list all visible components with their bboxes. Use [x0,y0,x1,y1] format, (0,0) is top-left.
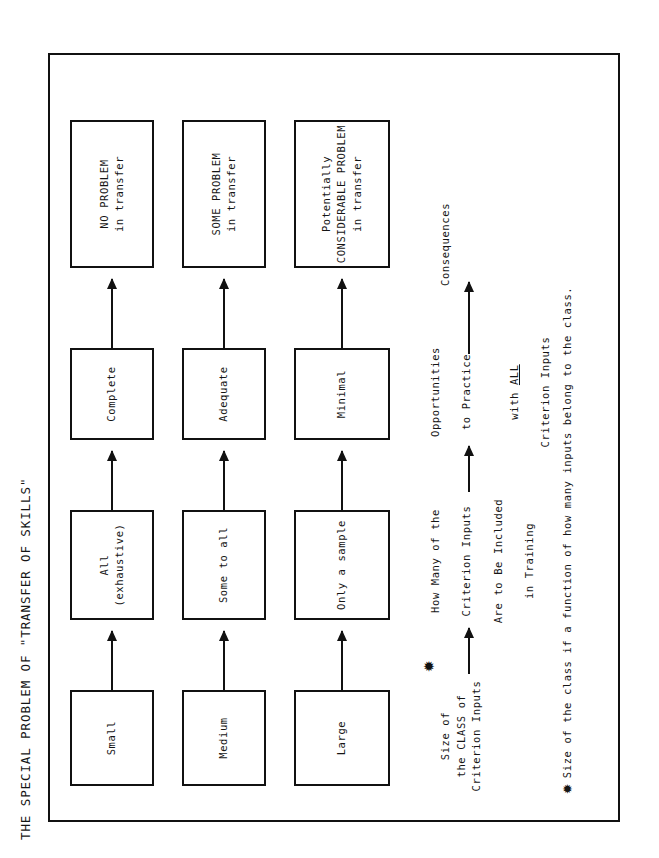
node-label: Potentially CONSIDERABLE PROBLEM in tran… [319,125,365,263]
column-header-practice-line1: Opportunities [428,324,444,460]
column-header-inputs-line4: in Training [522,476,538,646]
connector-row1-c-icon [111,279,113,348]
column-header-inputs-included: How Many of the Criterion Inputs Are to … [412,476,554,646]
practice-line3-emphasis: ALL [508,364,520,385]
column-header-consequences-label: Consequences [439,203,451,286]
column-header-class-size-label: Size of the CLASS of Criterion Inputs [439,681,483,792]
connector-row3-b-icon [341,451,343,510]
header-arrow-2-icon [468,446,470,492]
node-label: Complete [104,366,119,421]
connector-row2-c-icon [223,279,225,348]
column-header-inputs-line1: How Many of the [428,476,444,646]
column-header-practice-line4: Criterion Inputs [538,324,554,460]
page-title-text: THE SPECIAL PROBLEM OF "TRANSFER OF SKIL… [18,478,33,840]
node-practice-row3[interactable]: Minimal [294,348,390,440]
node-label: Only a sample [334,520,349,610]
diagram-canvas: Size of the CLASS of Criterion Inputs ✹ … [50,55,622,824]
node-label: SOME PROBLEM in transfer [209,152,239,235]
node-label: Minimal [334,370,349,418]
header-arrow-1-icon [468,628,470,674]
column-header-inputs-line2: Criterion Inputs [459,476,475,646]
column-header-practice: Opportunities to Practice with ALL Crite… [412,324,570,460]
connector-row2-b-icon [223,451,225,510]
node-label: NO PROBLEM in transfer [97,156,127,232]
node-label: Adequate [216,366,231,421]
column-header-practice-line3: with ALL [491,324,523,460]
connector-row1-b-icon [111,451,113,510]
node-label: All (exhaustive) [97,523,127,606]
footnote-asterisk-icon: ✹ [558,783,575,794]
practice-line3-prefix: with [508,385,520,420]
node-consequence-row1[interactable]: NO PROBLEM in transfer [70,120,154,268]
node-label: Small [104,721,119,756]
column-header-inputs-line3: Are to Be Included [491,476,507,646]
column-header-class-size: Size of the CLASS of Criterion Inputs [422,670,485,802]
node-class-size-row1[interactable]: Small [70,690,154,786]
footnote: ✹ Size of the class if a function of how… [558,287,575,794]
connector-row1-a-icon [111,631,113,690]
column-header-consequences: Consequences [422,136,454,286]
node-label: Some to all [216,527,231,603]
connector-row2-a-icon [223,631,225,690]
node-consequence-row2[interactable]: SOME PROBLEM in transfer [182,120,266,268]
diagram-frame: Size of the CLASS of Criterion Inputs ✹ … [48,53,620,822]
node-class-size-row3[interactable]: Large [294,690,390,786]
node-inputs-included-row2[interactable]: Some to all [182,510,266,620]
node-practice-row1[interactable]: Complete [70,348,154,440]
page-title: THE SPECIAL PROBLEM OF "TRANSFER OF SKIL… [8,0,42,858]
connector-row3-a-icon [341,631,343,690]
connector-row3-c-icon [341,279,343,348]
footnote-text: Size of the class if a function of how m… [561,287,573,778]
node-label: Medium [216,717,231,759]
asterisk-marker-icon: ✹ [418,661,437,672]
node-consequence-row3[interactable]: Potentially CONSIDERABLE PROBLEM in tran… [294,120,390,268]
node-label: Large [334,721,349,756]
header-arrow-3-icon [468,282,470,354]
node-inputs-included-row1[interactable]: All (exhaustive) [70,510,154,620]
node-class-size-row2[interactable]: Medium [182,690,266,786]
node-inputs-included-row3[interactable]: Only a sample [294,510,390,620]
node-practice-row2[interactable]: Adequate [182,348,266,440]
